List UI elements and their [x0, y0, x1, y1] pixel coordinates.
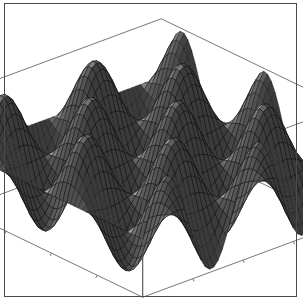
figure-root	[0, 0, 303, 302]
surface-mesh	[0, 31, 303, 271]
y-axis-tick	[243, 260, 244, 263]
y-axis-tick	[193, 279, 194, 282]
y-axis-tick	[293, 241, 294, 244]
x-axis-tick	[5, 231, 6, 234]
surface-plot-canvas	[0, 0, 303, 302]
x-axis-tick	[96, 275, 97, 278]
x-axis-tick	[50, 253, 51, 256]
